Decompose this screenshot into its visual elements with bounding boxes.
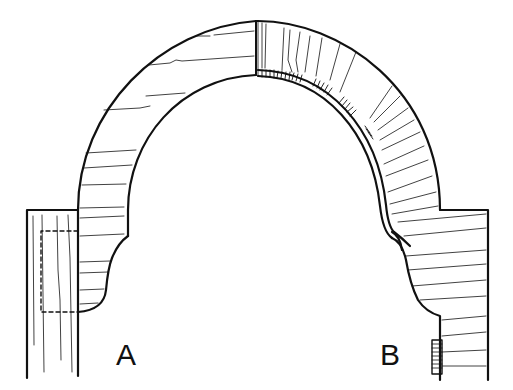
hidden-tenon-outline [41,231,78,312]
arch-drawing [0,0,513,390]
arch-left-half [78,21,256,210]
liner-hatching [262,70,373,139]
right-post [392,210,488,380]
arch-right-half [256,21,440,246]
left-post [27,210,78,378]
left-haunch [78,210,128,312]
label-a: A [116,340,136,370]
label-b: B [380,340,400,370]
